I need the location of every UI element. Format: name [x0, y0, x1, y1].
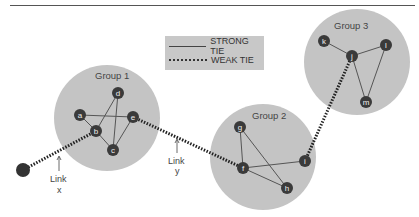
node-g: g	[234, 121, 246, 133]
legend-weak-label: WEAK TIE	[211, 55, 254, 65]
group-3-label: Group 3	[334, 20, 368, 31]
legend-strong: STRONG TIE	[169, 40, 264, 52]
svg-text:m: m	[363, 98, 370, 107]
node-b: b	[90, 125, 102, 137]
link-x-label-line2: x	[57, 185, 62, 195]
legend: STRONG TIE WEAK TIE	[165, 36, 264, 70]
link-y-label-line2: y	[175, 166, 180, 176]
svg-text:l: l	[385, 41, 387, 50]
node-l: l	[380, 39, 392, 51]
node-h: h	[281, 182, 293, 194]
group-2-label: Group 2	[252, 110, 286, 121]
svg-text:d: d	[116, 89, 120, 98]
svg-text:c: c	[111, 146, 115, 155]
outside-node	[16, 163, 30, 177]
legend-strong-label: STRONG TIE	[210, 36, 264, 56]
node-f: f	[237, 162, 249, 174]
node-c: c	[107, 144, 119, 156]
legend-weak: WEAK TIE	[169, 54, 254, 66]
svg-text:e: e	[131, 113, 136, 122]
node-e: e	[127, 111, 139, 123]
svg-text:g: g	[238, 123, 242, 132]
node-m: m	[360, 96, 372, 108]
network-diagram: Group 1 Group 2 Group 3 Link x Link y a	[0, 0, 419, 217]
node-j: j	[346, 50, 358, 62]
node-i: i	[299, 155, 311, 167]
solid-line-icon	[169, 46, 206, 47]
node-d: d	[112, 87, 124, 99]
svg-text:b: b	[94, 127, 99, 136]
svg-text:j: j	[350, 52, 353, 61]
node-k: k	[318, 35, 330, 47]
node-a: a	[74, 109, 86, 121]
group-1-label: Group 1	[95, 70, 129, 81]
svg-text:a: a	[78, 111, 83, 120]
svg-text:i: i	[304, 157, 306, 166]
link-y-label-line1: Link	[168, 156, 185, 166]
link-x-label-line1: Link	[50, 174, 67, 184]
dotted-line-icon	[169, 59, 207, 61]
svg-text:h: h	[285, 184, 289, 193]
